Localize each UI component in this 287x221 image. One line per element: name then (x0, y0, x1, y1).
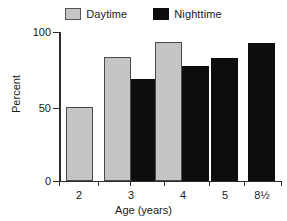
y-tick-100 (53, 32, 59, 33)
x-tick-label-5: 5 (205, 189, 245, 201)
bar-chart: Daytime Nighttime 100 50 0 Percent (0, 0, 287, 221)
legend-label-daytime: Daytime (86, 8, 127, 20)
x-axis-title: Age (years) (0, 204, 287, 216)
bar-nighttime-age-8h (248, 43, 275, 181)
x-tick-end (281, 181, 282, 186)
legend-entry-daytime: Daytime (65, 8, 127, 20)
bar-nighttime-age-3 (131, 79, 158, 181)
x-tick-5 (244, 181, 245, 186)
y-tick-50 (53, 108, 59, 109)
x-tick-label-8h: 8½ (242, 189, 282, 201)
daytime-swatch-icon (65, 8, 81, 20)
y-axis-title: Percent (10, 34, 22, 154)
bar-daytime-age-2 (66, 107, 93, 181)
x-tick-4 (209, 181, 210, 186)
bar-daytime-age-4 (155, 42, 182, 181)
legend-entry-nighttime: Nighttime (153, 8, 221, 20)
nighttime-swatch-icon (153, 8, 169, 20)
x-tick-2 (130, 181, 131, 186)
x-tick-label-3: 3 (111, 189, 151, 201)
x-tick-label-4: 4 (163, 189, 203, 201)
x-tick-3 (164, 181, 165, 186)
chart-legend: Daytime Nighttime (0, 8, 287, 20)
bar-daytime-age-3 (104, 57, 131, 181)
legend-label-nighttime: Nighttime (174, 8, 221, 20)
y-tick-label-0: 0 (9, 176, 51, 187)
x-tick-1 (98, 181, 99, 186)
x-tick-start (59, 181, 60, 186)
x-tick-label-2: 2 (59, 189, 99, 201)
plot-area (60, 33, 282, 181)
bar-nighttime-age-4 (182, 66, 209, 181)
bar-nighttime-age-5 (211, 58, 238, 181)
